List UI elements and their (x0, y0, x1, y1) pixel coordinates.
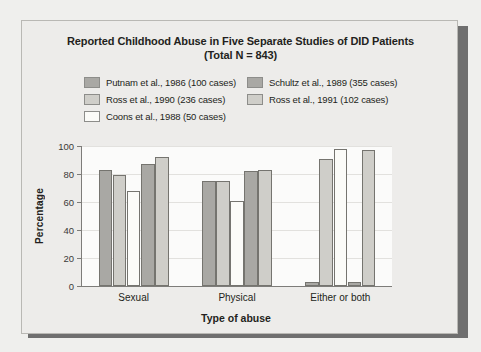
bar (99, 170, 113, 286)
bar (155, 157, 169, 286)
y-axis-tick-label: 40 (63, 225, 74, 236)
y-axis-tick-label: 100 (58, 141, 74, 152)
y-axis-title: Percentage (34, 146, 45, 286)
y-axis-tick-label: 20 (63, 253, 74, 264)
bars-layer (82, 146, 392, 286)
y-axis-tick-label: 80 (63, 169, 74, 180)
bar (141, 164, 155, 286)
x-axis-title: Type of abuse (81, 312, 391, 324)
bar (319, 159, 333, 286)
bar (113, 175, 127, 286)
y-axis-tick-label: 60 (63, 197, 74, 208)
y-axis-tick (77, 286, 82, 287)
y-axis-tick-label: 0 (69, 281, 74, 292)
plot-wrapper: Percentage 020406080100 SexualPhysicalEi… (22, 21, 459, 335)
bar (216, 181, 230, 286)
x-axis-category-label: Either or both (310, 292, 370, 303)
x-axis-category-label: Physical (218, 292, 255, 303)
bar (244, 171, 258, 286)
bar (362, 150, 376, 286)
bar (230, 201, 244, 286)
bar (348, 282, 362, 286)
bar (258, 170, 272, 286)
x-axis-category-label: Sexual (118, 292, 149, 303)
bar (202, 181, 216, 286)
bar (334, 149, 348, 286)
plot-area: 020406080100 SexualPhysicalEither or bot… (81, 146, 392, 287)
figure-frame: Reported Childhood Abuse in Five Separat… (21, 20, 458, 334)
bar (127, 191, 141, 286)
bar (305, 282, 319, 286)
